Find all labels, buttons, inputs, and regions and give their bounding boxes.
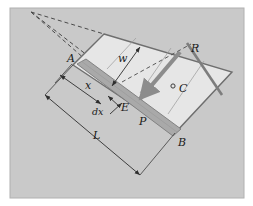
width-w-label: w — [118, 52, 128, 65]
pressure-p-label: P — [138, 115, 147, 128]
figure-container: A B C E x dx w L P R — [0, 0, 253, 206]
point-c-label: C — [179, 82, 188, 95]
distance-x-label: x — [85, 79, 92, 92]
centroid-marker — [171, 84, 175, 88]
diagram-canvas: A B C E x dx w L P R — [0, 0, 253, 206]
point-b-label: B — [177, 136, 186, 149]
point-a-label: A — [66, 52, 75, 65]
resultant-r-label: R — [190, 42, 199, 55]
element-dx-label: dx — [92, 106, 104, 117]
point-e-label: E — [120, 101, 129, 114]
length-l-label: L — [92, 129, 100, 142]
